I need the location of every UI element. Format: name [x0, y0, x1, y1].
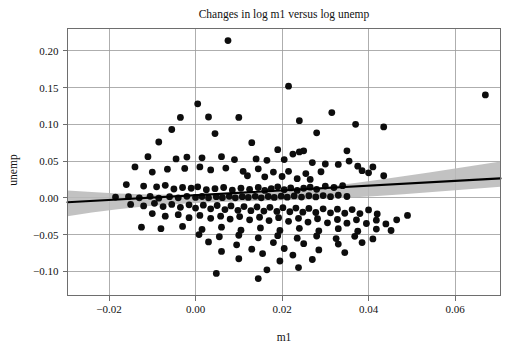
svg-text:0.20: 0.20 [39, 45, 59, 57]
svg-text:0.05: 0.05 [39, 155, 59, 167]
chart-container: Changes in log m1 versus log unemp −0.02… [0, 0, 522, 356]
svg-text:0.02: 0.02 [272, 303, 291, 315]
svg-text:0.00: 0.00 [186, 303, 206, 315]
chart-title: Changes in log m1 versus log unemp [199, 8, 370, 21]
svg-text:0.15: 0.15 [39, 82, 59, 94]
svg-text:0.10: 0.10 [39, 118, 59, 130]
svg-text:−0.10: −0.10 [33, 265, 59, 277]
svg-text:−0.05: −0.05 [33, 229, 59, 241]
svg-text:0.00: 0.00 [39, 192, 59, 204]
svg-text:0.04: 0.04 [359, 303, 379, 315]
y-axis-label: unemp [7, 154, 20, 186]
svg-text:0.06: 0.06 [445, 303, 465, 315]
x-axis-label: m1 [277, 331, 292, 343]
scatter-plot: Changes in log m1 versus log unemp −0.02… [0, 0, 522, 356]
svg-text:−0.02: −0.02 [96, 303, 121, 315]
